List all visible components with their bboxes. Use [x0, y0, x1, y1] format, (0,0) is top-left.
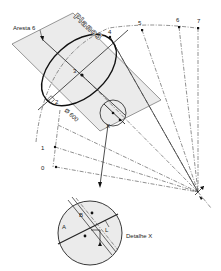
- detail-label-b: B: [79, 212, 83, 218]
- diameter-label: Ø 600: [63, 107, 80, 123]
- point-label-1: 1: [41, 145, 45, 151]
- detail-x-view: [58, 197, 122, 265]
- point-4: [109, 36, 111, 38]
- point-label-5: 5: [138, 20, 142, 26]
- arrowhead-icon: [199, 196, 203, 200]
- radial-line-5: [142, 30, 198, 192]
- arrowhead-icon: [98, 182, 102, 188]
- point-1: [54, 146, 56, 148]
- point-5: [141, 29, 143, 31]
- detail-title: Detalhe X: [126, 233, 152, 239]
- point-3: [80, 73, 83, 76]
- point-6: [178, 26, 180, 28]
- detail-label-a: A: [62, 224, 66, 230]
- focal-extension-line: [198, 192, 211, 208]
- point-7: [197, 27, 199, 29]
- radial-line-2: [58, 125, 198, 192]
- radial-line-6: [179, 27, 198, 192]
- detail-marker-label: X: [106, 123, 110, 129]
- detail-point: [91, 212, 94, 215]
- point-label-4: 4: [108, 29, 112, 35]
- edge-label: Aresta 6: [13, 25, 36, 31]
- point-0: [55, 166, 57, 168]
- detail-point-b: [84, 235, 87, 238]
- technical-diagram: Plano3 Aresta 6 Ø 600 X Detalhe X 0 1 2 …: [0, 0, 221, 271]
- radial-line-0: [56, 167, 198, 192]
- detail-marker-point: [112, 112, 115, 115]
- vertical-construction-line: [53, 110, 60, 167]
- point-label-2: 2: [55, 99, 59, 105]
- point-label-6: 6: [176, 17, 180, 23]
- detail-marker-point: [119, 119, 122, 122]
- detail-circle: [58, 201, 122, 265]
- point-label-0: 0: [41, 165, 45, 171]
- point-label-7: 7: [197, 18, 201, 24]
